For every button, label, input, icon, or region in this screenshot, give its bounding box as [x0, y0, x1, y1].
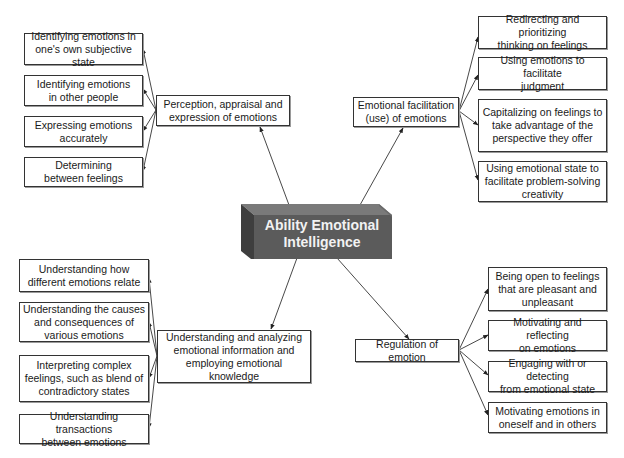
leaf-perception-1: Identifying emotions in one's own subjec… [24, 33, 143, 65]
arrow-regulation-child-3 [459, 350, 488, 375]
leaf-perception-2: Identifying emotions in other people [24, 75, 143, 106]
leaf-regulation-1: Being open to feelings that are pleasant… [488, 267, 607, 311]
branch-understanding: Understanding and analyzing emotional in… [157, 330, 311, 383]
branch-perception: Perception, appraisal and expression of … [156, 95, 290, 126]
leaf-perception-4: Determining between feelings [24, 157, 143, 187]
leaf-facilitation-2: Using emotions to facilitate judgment [478, 57, 607, 90]
branch-facilitation: Emotional facilitation (use) of emotions [353, 97, 459, 127]
branch-regulation: Regulation of emotion [355, 339, 459, 362]
leaf-regulation-3: Engaging with or detecting from emotiona… [488, 361, 607, 392]
arrow-center-to-perception [260, 127, 289, 205]
leaf-regulation-4: Motivating emotions in oneself and in ot… [488, 402, 607, 433]
leaf-facilitation-4: Using emotional state to facilitate prob… [478, 161, 607, 202]
arrow-facilitation-child-1 [459, 37, 478, 111]
arrow-understanding-child-2 [149, 322, 157, 356]
leaf-perception-3: Expressing emotions accurately [24, 116, 143, 147]
arrow-center-to-facilitation [360, 128, 403, 205]
leaf-understanding-3: Interpreting complex feelings, such as b… [19, 355, 149, 402]
arrow-perception-child-1 [143, 49, 156, 110]
leaf-regulation-2: Motivating and reflecting on emotions [488, 320, 607, 351]
arrow-perception-child-4 [143, 110, 156, 171]
arrow-facilitation-child-2 [459, 75, 478, 111]
mind-map-diagram: Ability Emotional Intelligence Perceptio… [0, 0, 624, 458]
leaf-understanding-1: Understanding how different emotions rel… [19, 259, 149, 292]
leaf-facilitation-1: Redirecting and prioritizing thinking on… [478, 16, 607, 49]
leaf-understanding-2: Understanding the causes and consequence… [19, 302, 149, 342]
arrow-center-to-regulation [337, 258, 409, 339]
arrow-center-to-understanding [271, 258, 297, 329]
arrow-understanding-child-1 [149, 278, 157, 356]
leaf-understanding-4: Understanding transactions between emoti… [19, 414, 149, 444]
arrow-facilitation-child-4 [459, 111, 478, 180]
center-node-label: Ability Emotional Intelligence [252, 212, 392, 256]
arrow-regulation-child-1 [459, 289, 488, 350]
arrow-regulation-child-4 [459, 350, 488, 415]
arrow-regulation-child-2 [459, 335, 488, 350]
leaf-facilitation-3: Capitalizing on feelings to take advanta… [478, 99, 607, 152]
